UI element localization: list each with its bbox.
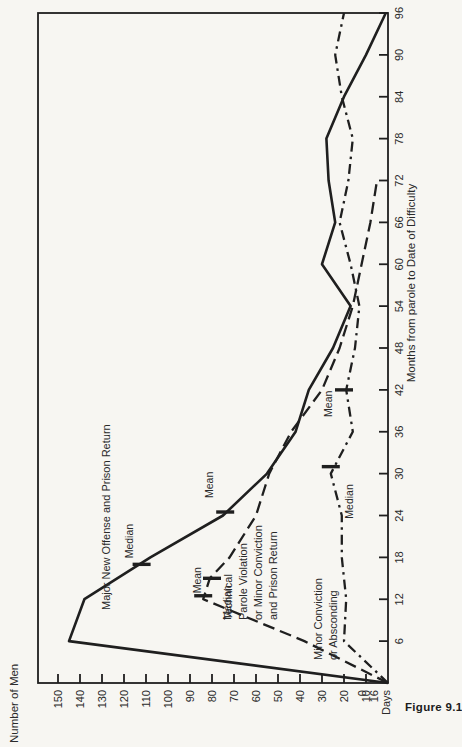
svg-text:24: 24 [393,509,405,521]
svg-text:12: 12 [393,593,405,605]
mean-marker-label: Mean [322,390,334,416]
svg-text:16: 16 [368,690,380,702]
svg-text:40: 40 [294,690,306,702]
svg-text:90: 90 [184,690,196,702]
svg-text:72: 72 [393,174,405,186]
series-label: Major New Offense and Prison Return [100,424,112,610]
median-marker-label: Median [343,484,355,519]
series-label: Minor Convictionor Absconding [312,578,339,660]
svg-text:48: 48 [393,342,405,354]
median-marker-label: Median [221,585,233,620]
mean-marker-label: Mean [191,567,203,593]
svg-text:Minor Conviction: Minor Conviction [312,578,324,660]
svg-text:20: 20 [338,690,350,702]
svg-text:140: 140 [74,690,86,708]
svg-text:Major New Offense and Prison R: Major New Offense and Prison Return [100,424,112,610]
plot-frame [38,13,388,683]
svg-text:130: 130 [96,690,108,708]
svg-text:36: 36 [393,426,405,438]
median-marker-label: Median [123,524,135,559]
svg-text:60: 60 [393,258,405,270]
svg-text:80: 80 [206,690,218,702]
figure-caption: Figure 9.1 [405,701,462,713]
y-axis-men: 102030405060708090100110120130140150Numb… [8,664,372,743]
svg-text:96: 96 [393,7,405,19]
svg-text:110: 110 [140,690,152,708]
svg-text:120: 120 [118,690,130,708]
svg-text:54: 54 [393,300,405,312]
series-dashed: TechnicalParole Violationor Minor Convic… [191,181,388,684]
svg-text:78: 78 [393,133,405,145]
mean-marker-label: Mean [203,472,215,498]
svg-text:0: 0 [356,690,368,696]
svg-text:150: 150 [52,690,64,708]
x-axis-title: Months from parole to Date of Difficulty [405,183,417,382]
svg-text:6: 6 [393,638,405,644]
x-axis-months: 6121824303642485460667278849096Months fr… [379,7,417,644]
svg-text:66: 66 [393,216,405,228]
svg-text:Parole Violation: Parole Violation [237,543,249,620]
svg-text:and Prison Return: and Prison Return [267,531,279,620]
svg-text:90: 90 [393,49,405,61]
svg-text:30: 30 [316,690,328,702]
svg-text:or Minor Conviction: or Minor Conviction [252,525,264,620]
series-dashdot: Minor Convictionor AbscondingMedianMean [312,13,388,683]
svg-text:70: 70 [228,690,240,702]
svg-text:or Absconding: or Absconding [327,590,339,660]
svg-text:42: 42 [393,384,405,396]
svg-text:18: 18 [393,551,405,563]
y-axis-title: Number of Men [8,664,20,743]
origin-labels: 016Days [356,690,392,716]
svg-text:100: 100 [162,690,174,708]
svg-text:50: 50 [272,690,284,702]
svg-text:Days: Days [380,690,392,716]
svg-text:84: 84 [393,91,405,103]
svg-text:60: 60 [250,690,262,702]
svg-text:30: 30 [393,468,405,480]
